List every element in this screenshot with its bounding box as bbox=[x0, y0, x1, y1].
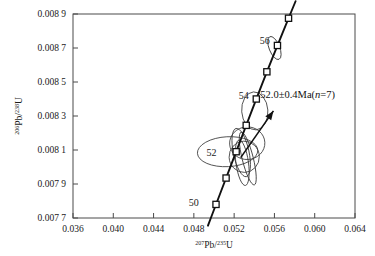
concordia-curve bbox=[208, 1, 296, 225]
error-ellipse-group bbox=[197, 35, 284, 187]
y-tick-label-3: 0.008 3 bbox=[38, 111, 67, 121]
svg-text:206Pb/238U: 206Pb/238U bbox=[14, 97, 24, 135]
plot-frame bbox=[73, 14, 355, 218]
concordia-age-label-group: 50525456 bbox=[189, 35, 270, 208]
chart-canvas: 0.0360.0400.0440.0480.0520.0560.0600.064… bbox=[0, 0, 375, 256]
concordia-diagram-figure: 0.0360.0400.0440.0480.0520.0560.0600.064… bbox=[0, 0, 375, 256]
discordia-pointer-line bbox=[241, 111, 274, 158]
age-marker-57 bbox=[285, 15, 291, 21]
svg-text:207Pb/235U: 207Pb/235U bbox=[195, 240, 233, 250]
age-label-54: 54 bbox=[239, 90, 249, 101]
y-tick-label-2: 0.008 5 bbox=[38, 77, 67, 87]
age-marker-56 bbox=[274, 42, 280, 48]
age-label-52: 52 bbox=[206, 147, 216, 158]
x-axis-title: 207Pb/235U bbox=[195, 240, 233, 250]
y-tick-label-4: 0.008 1 bbox=[38, 145, 67, 155]
y-axis-title: 206Pb/238U bbox=[14, 97, 24, 135]
y-tick-label-1: 0.008 7 bbox=[38, 43, 67, 53]
age-annotation: 52.0±0.4Ma(n=7) bbox=[260, 89, 335, 101]
x-tick-label-1: 0.040 bbox=[103, 224, 125, 234]
age-label-56: 56 bbox=[260, 35, 270, 46]
x-tick-label-5: 0.056 bbox=[264, 224, 286, 234]
age-marker-50 bbox=[213, 201, 219, 207]
svg-text:52.0±0.4Ma(n=7): 52.0±0.4Ma(n=7) bbox=[260, 89, 335, 101]
y-tick-label-6: 0.007 7 bbox=[38, 213, 67, 223]
y-axis-tickmarks bbox=[73, 14, 78, 218]
age-marker-53 bbox=[243, 122, 249, 128]
y-tick-label-5: 0.007 9 bbox=[38, 179, 67, 189]
x-tick-label-4: 0.052 bbox=[223, 224, 245, 234]
age-marker-51 bbox=[223, 175, 229, 181]
x-tick-label-0: 0.036 bbox=[62, 224, 84, 234]
x-axis-tick-labels: 0.0360.0400.0440.0480.0520.0560.0600.064 bbox=[62, 224, 366, 234]
age-marker-54 bbox=[253, 96, 259, 102]
x-tick-label-3: 0.048 bbox=[183, 224, 205, 234]
x-tick-label-6: 0.060 bbox=[304, 224, 326, 234]
age-label-50: 50 bbox=[189, 197, 199, 208]
y-tick-label-0: 0.008 9 bbox=[38, 9, 67, 19]
age-marker-55 bbox=[264, 69, 270, 75]
x-axis-tickmarks bbox=[73, 213, 355, 218]
x-tick-label-2: 0.044 bbox=[143, 224, 165, 234]
age-marker-52 bbox=[233, 149, 239, 155]
x-tick-label-7: 0.064 bbox=[344, 224, 366, 234]
y-axis-tick-labels: 0.008 90.008 70.008 50.008 30.008 10.007… bbox=[38, 9, 67, 223]
